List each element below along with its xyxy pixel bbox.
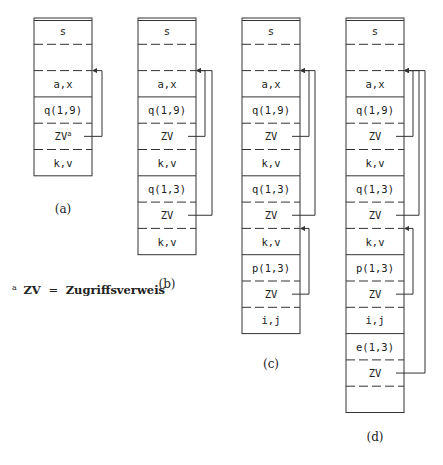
stack-cell-label: k,v (54, 157, 73, 169)
stack-cell-label: q(1,9) (148, 104, 186, 116)
stack-cell-label: q(1,9) (356, 104, 394, 116)
stack-cell-label: a,x (366, 78, 385, 90)
column-caption-c: (c) (263, 357, 279, 371)
stack-cell-label: q(1,9) (252, 104, 290, 116)
column-caption-d: (d) (366, 430, 383, 444)
stack-cell-label: s (60, 25, 66, 37)
stack-cell-label: ZV (369, 288, 382, 300)
stack-cell-label: ZV (369, 209, 382, 221)
stack-column-c: sa,xq(1,9)ZVk,vq(1,3)ZVk,vp(1,3)ZVi,j(c) (242, 18, 315, 371)
stack-cell-label: s (164, 25, 170, 37)
footnote-marker: a (12, 283, 17, 292)
stack-cell-label: ZV (369, 367, 382, 379)
footnote: a ZV = Zugriffsverweis (12, 279, 165, 297)
access-link-arrow (292, 71, 315, 216)
stack-cell-label: ZV (161, 130, 174, 142)
stack-cell-label: ZV (265, 130, 278, 142)
stack-column-d: sa,xq(1,9)ZVk,vq(1,3)ZVk,vp(1,3)ZVi,je(1… (346, 18, 425, 444)
stack-cell-label: ZV (265, 209, 278, 221)
stack-cell-label: a,x (158, 78, 177, 90)
stack-cell-label: ZVa (55, 130, 72, 142)
stack-cell-label: e(1,3) (356, 341, 394, 353)
stack-cell-label: q(1,3) (148, 183, 186, 195)
footnote-equals: = (48, 283, 58, 297)
access-link-arrow (396, 71, 425, 373)
column-caption-a: (a) (55, 202, 72, 216)
stack-cell-label: k,v (366, 236, 385, 248)
stack-cell-label: k,v (158, 236, 177, 248)
stack-cell-label: p(1,3) (252, 262, 290, 274)
stack-cell-label: a,x (262, 78, 281, 90)
stack-cell-label: q(1,3) (252, 183, 290, 195)
footnote-definition: Zugriffsverweis (66, 283, 165, 297)
footnote-text: a ZV = Zugriffsverweis (12, 279, 165, 297)
stack-columns: sa,xq(1,9)ZVak,v(a)sa,xq(1,9)ZVk,vq(1,3)… (34, 18, 425, 444)
stack-column-b: sa,xq(1,9)ZVk,vq(1,3)ZVk,v(b) (138, 18, 212, 291)
stack-cell-label: p(1,3) (356, 262, 394, 274)
access-link-arrow (84, 71, 102, 137)
stack-cell-label: ZV (369, 130, 382, 142)
activation-record-stack-diagram: sa,xq(1,9)ZVak,v(a)sa,xq(1,9)ZVk,vq(1,3)… (0, 0, 443, 465)
stack-cell-label: s (268, 25, 274, 37)
stack-column-a: sa,xq(1,9)ZVak,v(a) (34, 18, 102, 216)
stack-cell-label: k,v (262, 236, 281, 248)
access-link-arrow (396, 71, 419, 216)
stack-cell-label: i,j (262, 314, 281, 326)
footnote-reference: a (67, 130, 71, 138)
footnote-term: ZV (23, 283, 41, 297)
access-link-arrow (188, 71, 212, 216)
stack-cell-label: k,v (158, 157, 177, 169)
stack-cell-label: ZV (265, 288, 278, 300)
stack-cell-label: q(1,3) (356, 183, 394, 195)
stack-cell-label: ZV (161, 209, 174, 221)
stack-cell-label: a,x (54, 78, 73, 90)
stack-cell-label: k,v (366, 157, 385, 169)
stack-cell-label: i,j (366, 314, 385, 326)
stack-cell-label: s (372, 25, 378, 37)
stack-cell-label: k,v (262, 157, 281, 169)
stack-cell-label: q(1,9) (44, 104, 82, 116)
